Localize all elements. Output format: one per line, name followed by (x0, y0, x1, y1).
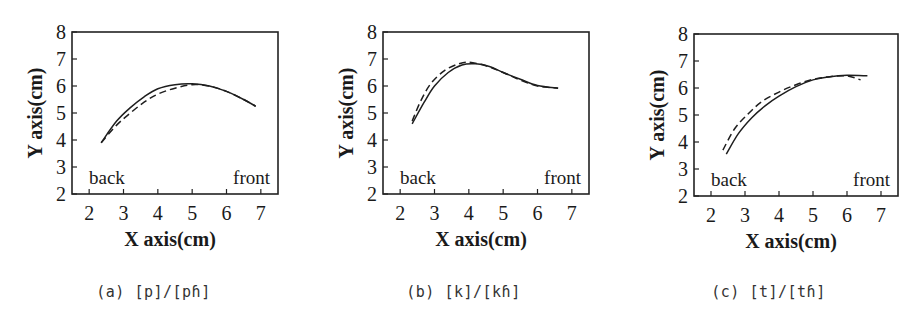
caption-b: (b) [k]/[kɦ] (310, 283, 617, 301)
annotation-front: front (544, 167, 582, 188)
chart-b: 2345678234567X axis(cm)Y axis(cm)backfro… (310, 0, 617, 322)
x-tick-label: 7 (256, 202, 266, 224)
x-tick-label: 5 (808, 204, 818, 226)
chart-panel-c: 2345678234567X axis(cm)Y axis(cm)backfro… (615, 0, 922, 322)
y-tick-label: 2 (367, 183, 377, 205)
y-tick-label: 7 (678, 50, 688, 72)
x-tick-label: 5 (498, 202, 508, 224)
x-tick-label: 7 (876, 204, 886, 226)
y-tick-label: 6 (678, 77, 688, 99)
series-plain-line (726, 75, 867, 154)
y-tick-label: 3 (367, 156, 377, 178)
x-tick-label: 4 (153, 202, 163, 224)
annotation-back: back (711, 169, 747, 190)
x-axis-title: X axis(cm) (124, 228, 216, 251)
y-tick-label: 3 (678, 158, 688, 180)
annotation-back: back (89, 167, 125, 188)
x-tick-label: 5 (187, 202, 197, 224)
y-axis-title: Y axis(cm) (335, 68, 358, 159)
chart-c: 2345678234567X axis(cm)Y axis(cm)backfro… (615, 0, 922, 322)
y-tick-label: 8 (56, 21, 66, 43)
series-aspirated-line (723, 76, 861, 150)
series-plain-line (101, 84, 256, 143)
y-tick-label: 2 (678, 185, 688, 207)
annotation-front: front (853, 169, 891, 190)
x-tick-label: 4 (774, 204, 784, 226)
x-tick-label: 2 (84, 202, 94, 224)
chart-panel-b: 2345678234567X axis(cm)Y axis(cm)backfro… (310, 0, 617, 322)
x-tick-label: 6 (842, 204, 852, 226)
y-tick-label: 4 (678, 131, 688, 153)
y-tick-label: 7 (56, 48, 66, 70)
y-tick-label: 5 (678, 104, 688, 126)
x-tick-label: 3 (119, 202, 129, 224)
y-tick-label: 2 (56, 183, 66, 205)
y-tick-label: 4 (56, 129, 66, 151)
y-tick-label: 8 (678, 23, 688, 45)
y-tick-label: 5 (56, 102, 66, 124)
chart-a: 2345678234567X axis(cm)Y axis(cm)backfro… (0, 0, 307, 322)
y-tick-label: 6 (367, 75, 377, 97)
x-axis-title: X axis(cm) (745, 230, 837, 253)
series-aspirated-line (412, 62, 558, 121)
y-axis-title: Y axis(cm) (646, 70, 669, 161)
x-tick-label: 3 (430, 202, 440, 224)
y-tick-label: 6 (56, 75, 66, 97)
caption-a: (a) [p]/[pɦ] (0, 283, 307, 301)
chart-panel-a: 2345678234567X axis(cm)Y axis(cm)backfro… (0, 0, 307, 322)
x-tick-label: 7 (567, 202, 577, 224)
x-tick-label: 6 (533, 202, 543, 224)
y-tick-label: 5 (367, 102, 377, 124)
x-tick-label: 6 (222, 202, 232, 224)
x-tick-label: 2 (395, 202, 405, 224)
series-plain-line (412, 64, 558, 124)
y-tick-label: 3 (56, 156, 66, 178)
annotation-back: back (400, 167, 436, 188)
y-axis-title: Y axis(cm) (24, 68, 47, 159)
x-tick-label: 2 (706, 204, 716, 226)
annotation-front: front (233, 167, 271, 188)
x-tick-label: 4 (464, 202, 474, 224)
x-axis-title: X axis(cm) (435, 228, 527, 251)
y-tick-label: 7 (367, 48, 377, 70)
x-tick-label: 3 (740, 204, 750, 226)
y-tick-label: 8 (367, 21, 377, 43)
y-tick-label: 4 (367, 129, 377, 151)
caption-c: (c) [t]/[tɦ] (615, 283, 922, 301)
